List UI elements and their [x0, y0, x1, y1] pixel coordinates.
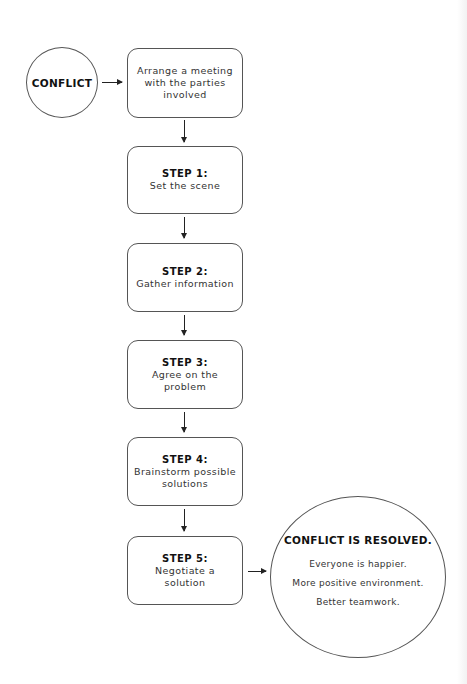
- step-2-box: STEP 2: Gather information: [127, 243, 243, 312]
- step-2-text: Gather information: [132, 278, 238, 290]
- arrow-down-0: [184, 120, 185, 142]
- page-edge-shadow: [457, 0, 467, 684]
- step-4-title: STEP 4:: [162, 454, 208, 466]
- step-2-title: STEP 2:: [162, 266, 208, 278]
- arrange-meeting-text: Arrange a meeting with the parties invol…: [128, 65, 242, 101]
- conflict-resolved-node: CONFLICT IS RESOLVED. Everyone is happie…: [270, 496, 446, 658]
- step-3-title: STEP 3:: [162, 357, 208, 369]
- outcome-benefit: Better teamwork.: [316, 597, 400, 607]
- step-1-title: STEP 1:: [162, 168, 208, 180]
- step-5-title: STEP 5:: [162, 553, 208, 565]
- outcome-title: CONFLICT IS RESOLVED.: [284, 534, 432, 546]
- conflict-start-node: CONFLICT: [26, 47, 98, 118]
- conflict-label: CONFLICT: [32, 77, 92, 89]
- outcome-benefit: Everyone is happier.: [309, 559, 407, 569]
- step-4-box: STEP 4: Brainstorm possible solutions: [127, 437, 243, 506]
- step-4-text: Brainstorm possible solutions: [128, 466, 242, 490]
- step-5-text: Negotiate a solution: [128, 565, 242, 589]
- arrow-right-start: [102, 82, 122, 83]
- outcome-benefit: More positive environment.: [292, 578, 423, 588]
- arrow-down-3: [184, 412, 185, 432]
- arrow-down-2: [184, 315, 185, 335]
- step-5-box: STEP 5: Negotiate a solution: [127, 536, 243, 605]
- step-1-box: STEP 1: Set the scene: [127, 146, 243, 214]
- step-3-box: STEP 3: Agree on the problem: [127, 340, 243, 409]
- arrow-right-outcome: [248, 571, 266, 572]
- step-3-text: Agree on the problem: [128, 369, 242, 393]
- arrow-down-1: [184, 217, 185, 238]
- step-1-text: Set the scene: [146, 180, 224, 192]
- arrange-meeting-box: Arrange a meeting with the parties invol…: [127, 48, 243, 118]
- arrow-down-4: [184, 509, 185, 531]
